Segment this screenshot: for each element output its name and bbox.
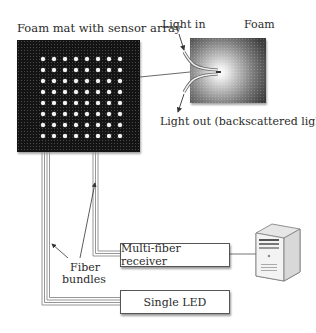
fiber-arrow-left-icon	[52, 244, 68, 258]
callout-line	[140, 72, 190, 77]
light-in-arrow-icon	[179, 34, 184, 50]
light-out-arrow-icon	[178, 94, 184, 112]
multi-fiber-receiver-box: Multi-fiber receiver	[120, 243, 230, 267]
fiber-bundles-label: Fiber bundles	[70, 262, 100, 286]
fiber-label-line2: bundles	[62, 274, 100, 286]
fiber-bundle-receiver	[93, 152, 120, 256]
server-tower-icon	[256, 224, 300, 281]
connectors	[0, 0, 316, 333]
single-led-box: Single LED	[120, 290, 230, 314]
